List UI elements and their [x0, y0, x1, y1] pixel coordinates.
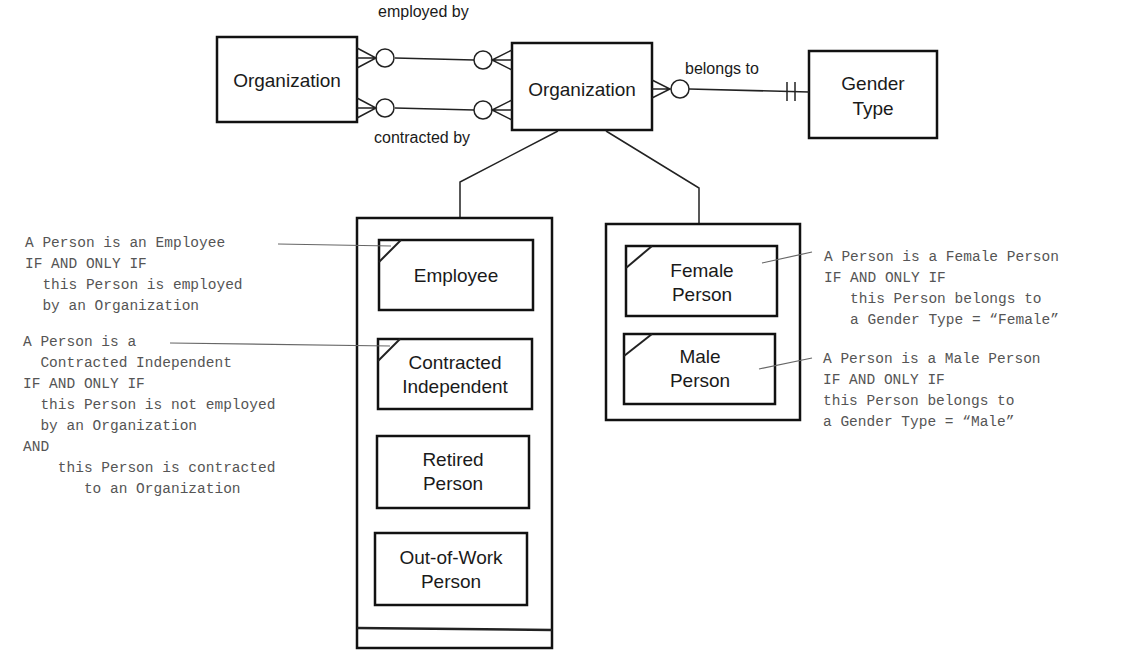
crows-foot-icon: [492, 100, 512, 120]
subtype-employee[interactable]: Employee: [379, 240, 533, 310]
note-line: IF AND ONLY IF: [25, 256, 147, 272]
subtype-male-person[interactable]: Male Person: [624, 334, 775, 404]
note-line: Contracted Independent: [23, 355, 232, 371]
note-line: A Person is an Employee: [25, 235, 225, 251]
note-line: by an Organization: [25, 298, 199, 314]
subtype-label-line1: Contracted: [409, 352, 502, 373]
subtype-connector-left: [460, 131, 558, 220]
subtype-label: Employee: [414, 265, 499, 286]
entity-organization-center[interactable]: Organization: [512, 43, 652, 130]
optional-circle-icon: [376, 99, 394, 117]
optional-circle-icon: [474, 51, 492, 69]
entity-label-line1: Gender: [841, 73, 905, 94]
note-line: this Person is not employed: [23, 397, 275, 413]
subtype-out-of-work-person[interactable]: Out-of-Work Person: [375, 533, 527, 605]
entity-label: Organization: [528, 79, 636, 100]
note-line: IF AND ONLY IF: [23, 376, 145, 392]
note-line: this Person is contracted: [23, 460, 275, 476]
subtype-label-line1: Retired: [422, 449, 483, 470]
note-line: a Gender Type = “Male”: [823, 414, 1014, 430]
note-line: this Person belongs to: [824, 291, 1042, 307]
optional-circle-icon: [474, 101, 492, 119]
note-line: A Person is a: [23, 334, 136, 350]
note-female-person: A Person is a Female Person IF AND ONLY …: [824, 249, 1059, 328]
note-line: A Person is a Male Person: [823, 351, 1041, 367]
subtype-label-line1: Female: [670, 260, 733, 281]
note-line: IF AND ONLY IF: [824, 270, 946, 286]
crows-foot-icon: [357, 98, 376, 118]
relationship-belongs-to[interactable]: belongs to: [652, 60, 809, 101]
relationship-label: contracted by: [374, 129, 470, 146]
note-line: to an Organization: [23, 481, 241, 497]
subtype-retired-person[interactable]: Retired Person: [377, 436, 529, 508]
crows-foot-icon: [652, 80, 670, 98]
entity-label: Organization: [233, 70, 341, 91]
note-line: AND: [23, 439, 49, 455]
optional-circle-icon: [671, 80, 689, 98]
entity-label-line2: Type: [852, 98, 893, 119]
subtype-label-line2: Person: [672, 284, 732, 305]
subtype-label-line2: Person: [670, 370, 730, 391]
crows-foot-icon: [357, 48, 376, 68]
note-line: by an Organization: [23, 418, 197, 434]
relationship-label: employed by: [378, 3, 469, 20]
subtype-label-line1: Male: [679, 346, 720, 367]
optional-circle-icon: [376, 49, 394, 67]
entity-organization-left[interactable]: Organization: [217, 37, 357, 122]
note-line: this Person belongs to: [823, 393, 1014, 409]
note-contracted-independent: A Person is a Contracted Independent IF …: [23, 334, 275, 497]
subtype-label-line2: Person: [421, 571, 481, 592]
note-line: A Person is a Female Person: [824, 249, 1059, 265]
subtype-connector-right: [606, 131, 699, 225]
subtype-contracted-independent[interactable]: Contracted Independent: [378, 339, 532, 409]
crows-foot-icon: [492, 50, 512, 70]
relationship-label: belongs to: [685, 60, 759, 77]
relationship-contracted-by[interactable]: contracted by: [357, 98, 512, 146]
er-diagram: Organization Organization Gender Type em…: [0, 0, 1136, 670]
entity-gender-type[interactable]: Gender Type: [809, 51, 937, 138]
subtype-group-employment: Employee Contracted Independent Retired …: [357, 218, 552, 648]
subtype-label-line2: Independent: [402, 376, 508, 397]
subtype-group-gender: Female Person Male Person: [606, 224, 800, 420]
note-line: a Gender Type = “Female”: [824, 312, 1059, 328]
relationship-employed-by[interactable]: employed by: [357, 3, 512, 70]
note-line: IF AND ONLY IF: [823, 372, 945, 388]
subtype-label-line2: Person: [423, 473, 483, 494]
note-line: this Person is employed: [25, 277, 243, 293]
note-employee: A Person is an Employee IF AND ONLY IF t…: [25, 235, 243, 314]
subtype-female-person[interactable]: Female Person: [626, 246, 777, 316]
note-male-person: A Person is a Male Person IF AND ONLY IF…: [823, 351, 1041, 430]
subtype-label-line1: Out-of-Work: [399, 547, 503, 568]
